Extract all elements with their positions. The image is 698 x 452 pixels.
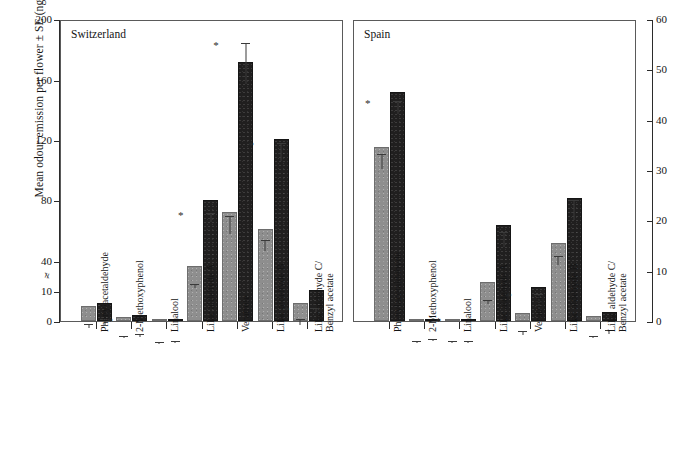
- x-axis-label-line1: Lilac aldehyde C/: [313, 261, 324, 332]
- x-axis-label-1-3: Lilac aldehyde A: [499, 264, 510, 332]
- y-axis-right-line: [652, 20, 653, 323]
- x-axis-label-line1: Lilac aldehyde B: [275, 264, 286, 332]
- error-bar-stem: [281, 143, 282, 161]
- x-axis-label-0-4: Veratrole: [241, 295, 252, 332]
- error-bar-stem: [300, 319, 301, 325]
- bar-switzerland-2-grey: [152, 319, 167, 321]
- error-bar-switzerland-4-black: [241, 43, 250, 84]
- error-bar-switzerland-4-grey: [225, 216, 234, 234]
- y-tick-right-0: [647, 322, 652, 323]
- error-bar-stem: [593, 336, 594, 338]
- y-ticklabel-left-200: 200: [22, 14, 52, 25]
- x-tick-1-5: [565, 322, 566, 329]
- error-bar-stem: [265, 240, 266, 251]
- bar-spain-5-grey: [551, 243, 566, 321]
- x-axis-label-line2: Benzyl acetate: [618, 261, 629, 332]
- y-tick-left-120: [54, 141, 59, 142]
- y-tick-right-10: [647, 272, 652, 273]
- bar-spain-1-grey: [409, 319, 424, 321]
- error-bar-stem: [468, 341, 469, 343]
- x-axis-label-0-5: Lilac aldehyde B: [276, 264, 287, 332]
- x-tick-1-2: [459, 322, 460, 329]
- x-tick-1-0: [389, 322, 390, 329]
- error-bar-switzerland-0-grey: [84, 324, 93, 329]
- x-axis-label-1-6: Lilac aldehyde C/Benzyl acetate: [607, 261, 628, 332]
- error-bar-stem: [558, 256, 559, 265]
- error-bar-spain-2-grey: [448, 341, 457, 343]
- error-bar-stem: [210, 213, 211, 222]
- x-axis-label-0-6: Lilac aldehyde C/Benzyl acetate: [314, 261, 335, 332]
- error-bar-switzerland-1-grey: [119, 336, 128, 338]
- x-tick-0-4: [237, 322, 238, 329]
- x-axis-label-line1: Lilac aldehyde A: [498, 264, 509, 332]
- x-axis-label-line1: Phenylacetaldehyde: [99, 252, 110, 332]
- bar-spain-4-grey: [515, 313, 530, 321]
- y-tick-right-20: [647, 221, 652, 222]
- y-ticklabel-right-60: 60: [656, 14, 667, 25]
- y-tick-right-50: [647, 70, 652, 71]
- y-tick-left-200: [54, 20, 59, 21]
- x-axis-label-line1: 2-Methoxyphenol: [427, 260, 438, 332]
- figure-root: Mean odour emission per flower ± SE (ng/…: [0, 0, 698, 452]
- x-axis-label-line1: 2-Methoxyphenol: [134, 260, 145, 332]
- y-ticklabel-left-0: 0: [22, 316, 52, 327]
- error-bar-switzerland-6-grey: [296, 319, 305, 325]
- bar-spain-0-grey: [374, 147, 389, 321]
- significance-star-switzerland-4: *: [213, 41, 219, 49]
- error-bar-stem: [229, 216, 230, 234]
- error-bar-stem: [123, 336, 124, 338]
- error-bar-spain-1-black: [428, 339, 437, 341]
- error-bar-stem: [194, 284, 195, 288]
- error-bar-stem: [503, 232, 504, 247]
- significance-star-spain-0: *: [365, 99, 371, 107]
- x-axis-label-0-2: Linalool: [170, 298, 181, 332]
- error-bar-switzerland-1-black: [135, 334, 144, 337]
- y-ticklabel-right-20: 20: [656, 215, 667, 226]
- y-ticklabel-right-0: 0: [656, 316, 662, 327]
- y-ticklabel-right-10: 10: [656, 266, 667, 277]
- x-axis-label-line2: Benzyl acetate: [325, 261, 336, 332]
- error-bar-stem: [245, 43, 246, 84]
- error-bar-stem: [452, 341, 453, 343]
- error-bar-switzerland-5-grey: [261, 240, 270, 251]
- y-ticklabel-right-40: 40: [656, 115, 667, 126]
- error-bar-spain-0-black: [393, 101, 402, 114]
- error-bar-stem: [381, 154, 382, 169]
- x-axis-label-1-5: Lilac aldehyde B: [569, 264, 580, 332]
- y-tick-left-0: [54, 322, 59, 323]
- error-bar-spain-6-grey: [589, 336, 598, 338]
- x-axis-label-line1: Linalool: [169, 298, 180, 332]
- error-bar-spain-4-grey: [518, 331, 527, 335]
- error-bar-stem: [159, 342, 160, 344]
- y-ticklabel-left-10: 10: [22, 286, 52, 297]
- x-axis-label-line1: Linalool: [462, 298, 473, 332]
- y-tick-right-60: [647, 20, 652, 21]
- y-tick-left-40: [54, 262, 59, 263]
- y-axis-break-marker: ≠: [40, 271, 53, 280]
- x-axis-label-line1: Veratrole: [240, 295, 251, 332]
- error-bar-stem: [175, 341, 176, 343]
- y-ticklabel-right-30: 30: [656, 165, 667, 176]
- error-bar-stem: [487, 300, 488, 304]
- y-tick-left-80: [54, 201, 59, 202]
- error-bar-stem: [139, 334, 140, 337]
- significance-star-switzerland-3: *: [178, 211, 184, 219]
- y-ticklabel-left-160: 160: [22, 75, 52, 86]
- bar-spain-2-grey: [445, 319, 460, 321]
- bar-switzerland-4-black: [238, 62, 253, 321]
- error-bar-spain-3-black: [499, 232, 508, 247]
- x-tick-0-1: [131, 322, 132, 329]
- x-axis-label-line1: Veratrole: [533, 295, 544, 332]
- y-ticklabel-right-50: 50: [656, 64, 667, 75]
- error-bar-spain-0-grey: [377, 154, 386, 169]
- bar-switzerland-3-grey: [187, 266, 202, 321]
- error-bar-switzerland-3-grey: [190, 284, 199, 288]
- x-axis-label-0-3: Lilac aldehyde A: [206, 264, 217, 332]
- x-tick-0-3: [202, 322, 203, 329]
- x-tick-0-0: [96, 322, 97, 329]
- error-bar-switzerland-2-grey: [155, 342, 164, 344]
- x-tick-1-4: [530, 322, 531, 329]
- x-axis-label-0-0: Phenylacetaldehyde: [100, 252, 111, 332]
- x-tick-1-1: [424, 322, 425, 329]
- y-axis-title-left: Mean odour emission per flower ± SE (ng/…: [33, 0, 45, 227]
